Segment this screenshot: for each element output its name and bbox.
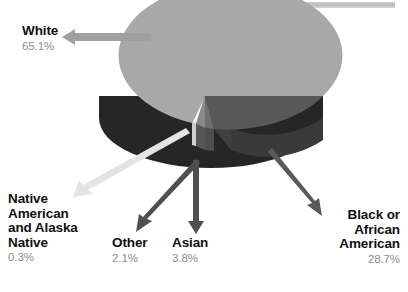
callout-black-african-american: Black or African American 28.7% (280, 208, 400, 266)
callout-other: Other 2.1% (112, 236, 148, 265)
callout-native-american-label: Native American and Alaska Native (8, 192, 113, 250)
pie-side-wall-asian-slice (205, 128, 214, 151)
pie-side-wall-native-slice (192, 123, 196, 146)
callout-asian-value: 3.8% (172, 252, 208, 265)
callout-black-african-american-value: 28.7% (280, 253, 400, 266)
callout-white: White 65.1% (22, 24, 58, 53)
callout-white-value: 65.1% (22, 40, 58, 53)
callout-other-label: Other (112, 236, 148, 251)
pie-side-wall-other-slice (196, 124, 205, 150)
callout-native-american-value: 0.3% (8, 251, 113, 264)
arrow-black-african-american (268, 148, 322, 216)
pie-chart-figure: White 65.1% Native American and Alaska N… (0, 0, 408, 292)
callout-asian: Asian 3.8% (172, 236, 208, 265)
callout-other-value: 2.1% (112, 252, 148, 265)
callout-native-american: Native American and Alaska Native 0.3% (8, 192, 113, 264)
callout-white-label: White (22, 24, 58, 39)
callout-black-african-american-label: Black or African American (280, 208, 400, 252)
callout-asian-label: Asian (172, 236, 208, 251)
